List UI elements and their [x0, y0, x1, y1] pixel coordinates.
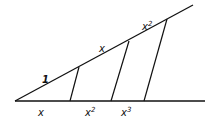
transversal-1	[70, 67, 79, 101]
upper-label-x2: x2	[141, 20, 153, 32]
transversal-2	[111, 41, 129, 101]
upper-label-1: 1	[42, 74, 49, 85]
lower-label-x3: x3	[120, 106, 131, 118]
lower-label-x: x	[37, 107, 44, 118]
lower-label-x2: x2	[84, 106, 96, 118]
upper-label-x: x	[98, 43, 105, 54]
diagram-canvas: 1 x x2 x x2 x3	[0, 0, 216, 121]
